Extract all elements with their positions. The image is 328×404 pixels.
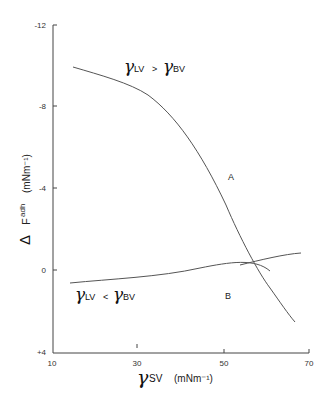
x-axis-label: γ SV (mNm⁻¹) xyxy=(137,366,213,388)
curve-a-label: A xyxy=(228,172,234,182)
curve-b xyxy=(70,253,301,283)
svg-text:SV: SV xyxy=(149,373,163,384)
y-tick-label: -8 xyxy=(39,102,47,111)
svg-text:adh: adh xyxy=(18,204,27,217)
y-tick-label: 0 xyxy=(42,266,47,275)
chart: -12 -8 -4 0 +4 10 30 50 70 A B γ LV > γ … xyxy=(0,0,328,404)
curve-a xyxy=(73,67,295,322)
x-tick-label: 70 xyxy=(305,359,314,368)
svg-text:(mNm⁻¹): (mNm⁻¹) xyxy=(174,373,213,384)
y-tick-label: -12 xyxy=(34,21,46,30)
x-ticks: 10 30 50 70 xyxy=(48,344,314,368)
y-ticks: -12 -8 -4 0 +4 xyxy=(34,21,57,357)
svg-text:(mNm⁻¹): (mNm⁻¹) xyxy=(21,154,32,193)
svg-text:F: F xyxy=(20,218,32,225)
svg-text:<: < xyxy=(103,292,108,302)
x-tick-label: 50 xyxy=(220,359,229,368)
curve-b-label: B xyxy=(225,291,231,301)
svg-text:BV: BV xyxy=(123,292,135,302)
svg-text:BV: BV xyxy=(173,64,185,74)
svg-text:LV: LV xyxy=(134,64,144,74)
x-tick-label: 10 xyxy=(48,359,57,368)
annotation-lv-greater-bv: γ LV > γ BV xyxy=(124,56,185,76)
y-tick-label: -4 xyxy=(39,184,47,193)
y-axis-label: Δ F adh (mNm⁻¹) xyxy=(16,154,33,245)
svg-text:>: > xyxy=(152,64,157,74)
svg-text:γ: γ xyxy=(137,366,149,388)
svg-text:LV: LV xyxy=(85,292,95,302)
annotation-lv-less-bv: γ LV < γ BV xyxy=(75,284,135,304)
svg-text:Δ: Δ xyxy=(16,235,33,245)
y-tick-label: +4 xyxy=(37,348,47,357)
